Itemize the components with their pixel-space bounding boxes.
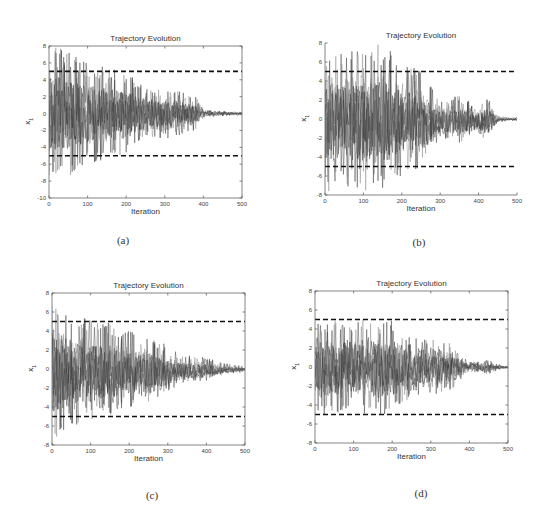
y-tick-label: 6: [309, 307, 313, 313]
y-tick-label: 8: [309, 288, 313, 294]
x-tick-label: 500: [503, 446, 514, 452]
x-tick-label: 100: [349, 446, 360, 452]
y-tick-label: 2: [309, 345, 313, 351]
y-tick-label: -8: [307, 440, 313, 446]
y-tick-label: -6: [307, 421, 313, 427]
y-tick-label: 0: [309, 364, 313, 370]
plot-area: 0100200300400500-8-6-4-202468: [0, 0, 545, 524]
y-tick-label: -4: [307, 402, 313, 408]
y-tick-label: 4: [309, 326, 313, 332]
x-tick-label: 300: [426, 446, 437, 452]
x-tick-label: 400: [464, 446, 475, 452]
trajectory-lines: [315, 320, 508, 415]
y-tick-label: -2: [307, 383, 313, 389]
x-tick-label: 0: [313, 446, 317, 452]
x-tick-label: 200: [387, 446, 398, 452]
